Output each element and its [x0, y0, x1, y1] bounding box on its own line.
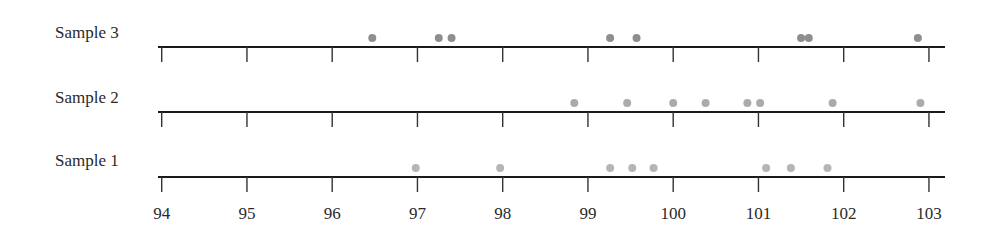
tick-label: 96 — [324, 204, 341, 223]
data-point — [448, 34, 456, 42]
tick-label: 97 — [409, 204, 427, 223]
data-point — [650, 164, 658, 172]
data-point — [914, 34, 922, 42]
data-point — [824, 164, 832, 172]
tick-label: 102 — [831, 204, 857, 223]
dot-plot-chart: Sample 3Sample 2Sample 19495969798991001… — [0, 0, 986, 237]
data-point — [412, 164, 420, 172]
data-point — [829, 99, 837, 107]
tick-label: 94 — [153, 204, 171, 223]
data-point — [606, 164, 614, 172]
data-point — [633, 34, 641, 42]
data-point — [916, 99, 924, 107]
row-label: Sample 3 — [55, 23, 119, 42]
tick-label: 98 — [494, 204, 511, 223]
row-sample-3: Sample 3 — [55, 23, 945, 62]
data-point — [606, 34, 614, 42]
tick-label: 103 — [916, 204, 942, 223]
row-label: Sample 1 — [55, 151, 119, 170]
data-point — [628, 164, 636, 172]
data-point — [623, 99, 631, 107]
tick-label: 99 — [579, 204, 596, 223]
tick-label: 100 — [660, 204, 686, 223]
data-point — [702, 99, 710, 107]
data-point — [805, 34, 813, 42]
x-axis-tick-labels: 949596979899100101102103 — [153, 204, 942, 223]
data-point — [787, 164, 795, 172]
data-point — [435, 34, 443, 42]
row-sample-2: Sample 2 — [55, 88, 945, 127]
tick-label: 101 — [746, 204, 772, 223]
data-point — [762, 164, 770, 172]
data-point — [368, 34, 376, 42]
tick-label: 95 — [238, 204, 255, 223]
data-point — [496, 164, 504, 172]
data-point — [756, 99, 764, 107]
data-point — [570, 99, 578, 107]
row-sample-1: Sample 1 — [55, 151, 945, 192]
data-point — [743, 99, 751, 107]
data-point — [669, 99, 677, 107]
data-point — [797, 34, 805, 42]
row-label: Sample 2 — [55, 88, 119, 107]
